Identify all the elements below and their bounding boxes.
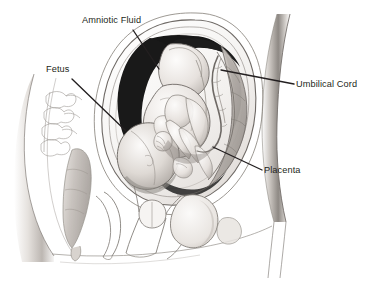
fetus-in-utero-figure: Amniotic Fluid Fetus Umbilical Cord Plac… bbox=[0, 0, 378, 293]
cervix bbox=[139, 200, 166, 228]
anatomy-illustration bbox=[0, 0, 378, 293]
label-placenta: Placenta bbox=[264, 165, 301, 176]
label-fetus: Fetus bbox=[46, 64, 69, 75]
label-umbilical-cord: Umbilical Cord bbox=[296, 79, 357, 90]
label-amniotic-fluid: Amniotic Fluid bbox=[82, 15, 141, 26]
pubic-symphysis bbox=[217, 217, 241, 244]
bladder bbox=[170, 195, 217, 248]
